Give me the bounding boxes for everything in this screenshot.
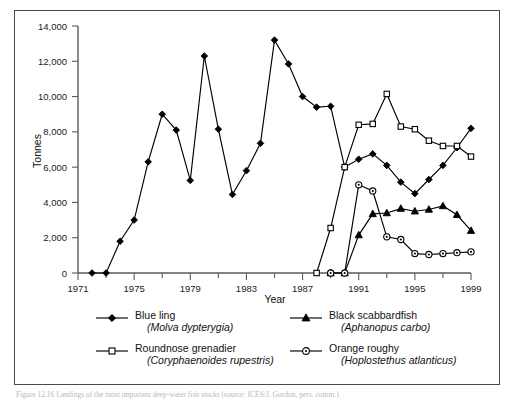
x-axis-title: Year [264, 293, 286, 305]
data-point-filled-diamond [103, 270, 110, 277]
legend-marker-open-square [95, 345, 129, 357]
data-point-filled-diamond [131, 217, 138, 224]
series-line [317, 94, 471, 273]
data-point-filled-diamond [229, 191, 236, 198]
data-series-layer [89, 37, 475, 276]
data-point-open-circle-dot [384, 234, 390, 240]
data-point-filled-triangle [453, 211, 460, 218]
y-axis: 02,0004,0006,0008,00010,00012,00014,000 … [31, 21, 78, 279]
legend-entry-black_scabbardfish[interactable]: Black scabbardfish(Aphanopus carbo) [289, 309, 499, 334]
legend-column-right: Black scabbardfish(Aphanopus carbo)Orang… [289, 309, 499, 375]
data-point-filled-diamond [271, 37, 278, 44]
legend-scientific-name: (Coryphaenoides rupestris) [147, 354, 305, 367]
y-axis-ticks [72, 26, 78, 273]
x-axis-ticks [78, 273, 471, 280]
x-tick-label: 1991 [348, 283, 369, 294]
data-point-filled-triangle [397, 205, 404, 212]
legend-common-name: Roundnose grenadier [135, 342, 305, 354]
data-point-filled-diamond [108, 314, 115, 321]
data-point-open-square [328, 225, 333, 230]
data-point-open-square [412, 127, 417, 132]
data-point-filled-diamond [355, 156, 362, 163]
legend-marker-open-circle-dot [289, 345, 323, 357]
data-point-open-square [370, 121, 375, 126]
legend-common-name: Orange roughy [329, 342, 499, 354]
data-point-open-square [342, 164, 347, 169]
y-tick-label: 0 [62, 268, 67, 279]
series-line [331, 185, 471, 273]
data-point-open-square [454, 143, 459, 148]
data-point-open-circle-dot [342, 270, 348, 276]
y-tick-label: 12,000 [38, 56, 67, 67]
series-orange-roughy [328, 182, 475, 276]
data-point-open-square [468, 154, 473, 159]
data-point-filled-diamond [327, 103, 334, 110]
y-tick-label: 2,000 [43, 232, 67, 243]
legend-marker-filled-triangle [289, 312, 323, 324]
x-tick-label: 1975 [124, 283, 145, 294]
x-axis: 19711975197919831987199119951999 Year [67, 273, 481, 305]
legend-symbol [289, 343, 323, 355]
chart-legend: Blue ling(Molva dypterygia)Roundnose gre… [37, 309, 477, 383]
legend-scientific-name: (Molva dypterygia) [147, 321, 305, 334]
data-point-open-square [426, 138, 431, 143]
data-point-filled-diamond [215, 126, 222, 133]
legend-entry-orange_roughy[interactable]: Orange roughy(Hoplostethus atlanticus) [289, 342, 499, 367]
legend-symbol [95, 310, 129, 322]
legend-common-name: Black scabbardfish [329, 309, 499, 321]
legend-symbol [289, 310, 323, 322]
y-tick-label: 8,000 [43, 126, 67, 137]
data-point-filled-diamond [285, 61, 292, 68]
legend-marker-filled-diamond [95, 312, 129, 324]
data-point-open-circle-dot [440, 250, 446, 256]
legend-scientific-name: (Hoplostethus atlanticus) [341, 354, 499, 367]
x-tick-label: 1987 [292, 283, 313, 294]
figure-caption: Figure 12.16 Landings of the most import… [16, 390, 516, 399]
legend-entry-roundnose_grenadier[interactable]: Roundnose grenadier(Coryphaenoides rupes… [95, 342, 305, 367]
data-point-filled-diamond [257, 140, 264, 147]
data-point-open-circle-dot [356, 182, 362, 188]
legend-scientific-name: (Aphanopus carbo) [341, 321, 499, 334]
data-point-open-circle-dot [454, 250, 460, 256]
series-roundnose-grenadier [314, 91, 474, 275]
data-point-filled-diamond [145, 159, 152, 166]
y-tick-label: 14,000 [38, 21, 67, 32]
data-point-open-square [109, 348, 115, 354]
data-point-open-square [314, 270, 319, 275]
data-point-open-square [398, 124, 403, 129]
x-tick-label: 1983 [236, 283, 257, 294]
y-tick-label: 4,000 [43, 197, 67, 208]
data-point-open-circle-dot [468, 249, 474, 255]
data-point-open-circle-dot [328, 270, 334, 276]
legend-entry-blue_ling[interactable]: Blue ling(Molva dypterygia) [95, 309, 305, 334]
x-tick-label: 1999 [460, 283, 481, 294]
y-axis-title: Tonnes [31, 134, 43, 168]
data-point-filled-diamond [117, 238, 124, 245]
series-line [92, 40, 471, 273]
data-point-filled-diamond [243, 167, 250, 174]
figure-frame: 02,0004,0006,0008,00010,00012,00014,000 … [14, 10, 500, 385]
data-point-open-square [440, 143, 445, 148]
series-blue-ling [89, 37, 475, 276]
x-tick-label: 1971 [67, 283, 88, 294]
data-point-open-square [356, 122, 361, 127]
data-point-filled-diamond [187, 177, 194, 184]
legend-common-name: Blue ling [135, 309, 305, 321]
legend-symbol [95, 343, 129, 355]
legend-column-left: Blue ling(Molva dypterygia)Roundnose gre… [95, 309, 305, 375]
x-tick-label: 1979 [180, 283, 201, 294]
y-tick-label: 10,000 [38, 91, 67, 102]
data-point-open-square [384, 91, 389, 96]
y-tick-label: 6,000 [43, 162, 67, 173]
data-point-filled-diamond [89, 270, 96, 277]
x-tick-label: 1995 [404, 283, 425, 294]
data-point-open-circle-dot [398, 236, 404, 242]
fisheries-landings-line-chart: 02,0004,0006,0008,00010,00012,00014,000 … [15, 11, 501, 311]
data-point-filled-diamond [201, 53, 208, 60]
data-point-open-circle-dot [370, 188, 376, 194]
data-point-open-circle-dot [412, 250, 418, 256]
data-point-filled-triangle [439, 202, 446, 209]
data-point-open-circle-dot [426, 251, 432, 257]
data-point-open-circle-dot [303, 348, 310, 355]
